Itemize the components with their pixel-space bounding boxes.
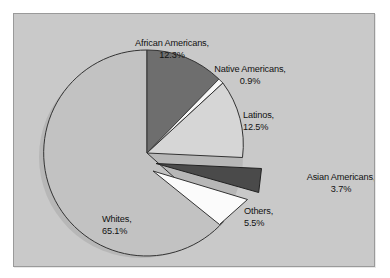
pie-chart-figure: African Americans, 12.3% Native American…: [0, 0, 390, 278]
pie-label-latinos-value: 12.5%: [243, 122, 305, 134]
pie-label-african-americans-value: 12.3%: [118, 50, 226, 62]
pie-label-asian-americans: Asian Americans, 3.7%: [286, 172, 374, 195]
pie-label-latinos: Latinos, 12.5%: [243, 110, 305, 133]
pie-label-whites-name: Whites,: [102, 214, 164, 226]
pie-label-asian-americans-name: Asian Americans,: [286, 172, 374, 184]
pie-label-others-name: Others,: [244, 206, 298, 218]
pie-label-others: Others, 5.5%: [244, 206, 298, 229]
pie-label-native-americans-name: Native Americans,: [195, 64, 305, 76]
chart-plot-area: African Americans, 12.3% Native American…: [14, 14, 374, 266]
pie-label-native-americans-value: 0.9%: [195, 76, 305, 88]
pie-label-others-value: 5.5%: [244, 218, 298, 230]
pie-label-whites: Whites, 65.1%: [102, 214, 164, 237]
pie-label-whites-value: 65.1%: [102, 226, 164, 238]
chart-panel: African Americans, 12.3% Native American…: [13, 13, 375, 267]
pie-label-native-americans: Native Americans, 0.9%: [195, 64, 305, 87]
pie-label-african-americans-name: African Americans,: [118, 38, 226, 50]
pie-label-african-americans: African Americans, 12.3%: [118, 38, 226, 61]
pie-label-asian-americans-value: 3.7%: [286, 184, 374, 196]
pie-label-latinos-name: Latinos,: [243, 110, 305, 122]
